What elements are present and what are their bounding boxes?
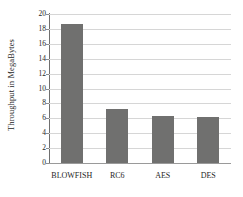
y-axis-tickmark [46,103,49,104]
y-axis-tickmark [46,133,49,134]
x-axis-category-labels: BLOWFISHRC6AESDES [49,172,231,188]
y-axis-tick-label: 18 [39,25,47,33]
plot-area [49,14,231,163]
x-axis-tick-label: RC6 [110,172,125,180]
bar [152,116,174,163]
y-axis-tickmark [46,44,49,45]
y-axis-tickmark [46,89,49,90]
y-axis-tickmark [46,14,49,15]
y-axis-tickmark [46,29,49,30]
y-axis-tick-label: 16 [39,40,47,48]
y-axis-title-label: Throughput in MegaBytes [6,39,16,131]
y-axis-tick-label: 10 [39,85,47,93]
y-axis-tickmark [46,163,49,164]
y-axis-tickmark [46,148,49,149]
y-axis-tickmark [46,74,49,75]
y-axis-tick-labels: 20181614121086420 [26,14,46,163]
x-axis-tick-label: BLOWFISH [51,172,92,180]
y-axis-tickmark [46,118,49,119]
bar [61,24,83,163]
x-axis-tick-label: DES [201,172,216,180]
y-axis-tick-label: 14 [39,55,47,63]
y-axis-tick-label: 20 [39,10,47,18]
bar [197,117,219,163]
bar-chart-figure: Throughput in MegaBytes 2018161412108642… [0,0,243,197]
x-axis-tick-label: AES [155,172,170,180]
gridline [49,14,231,15]
y-axis-title: Throughput in MegaBytes [0,0,22,170]
bar [106,109,128,163]
y-axis-tickmark [46,59,49,60]
gridline [49,163,231,164]
y-axis-tick-label: 12 [39,70,47,78]
